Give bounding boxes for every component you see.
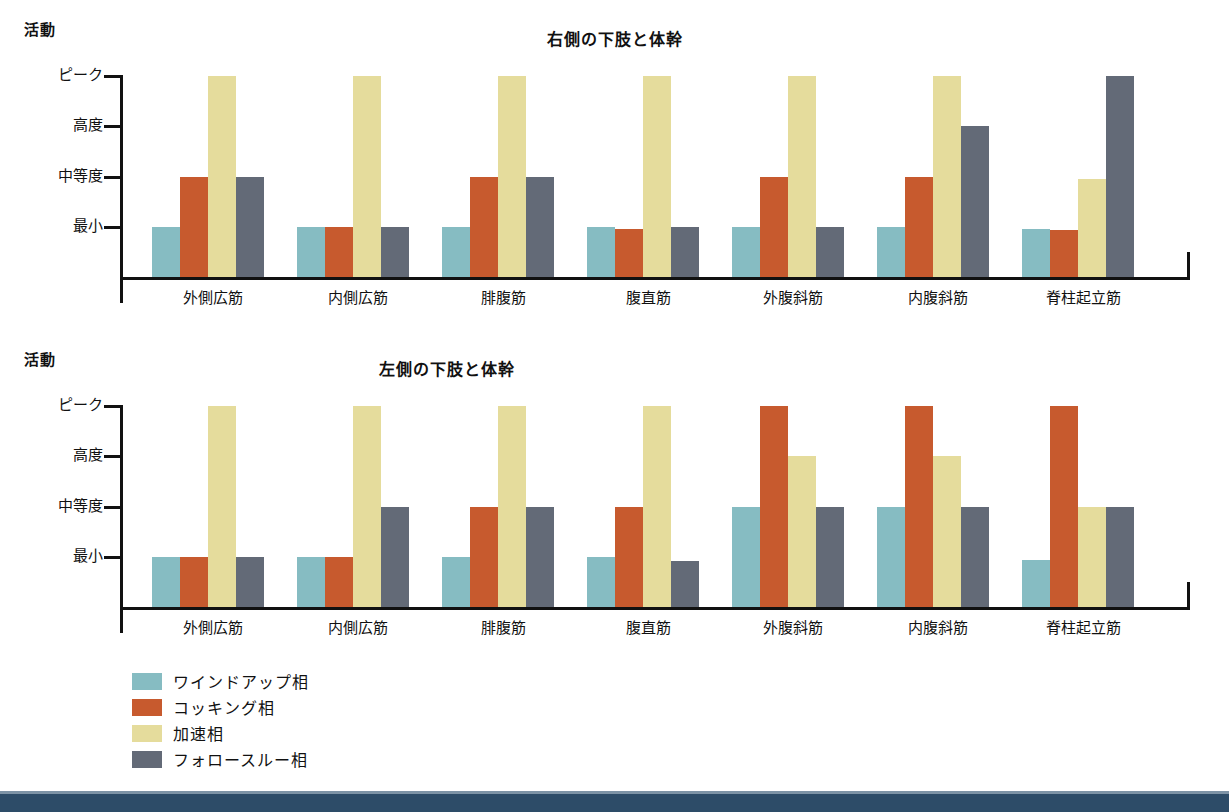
legend-item: 加速相 bbox=[132, 720, 532, 746]
bar-group: 外側広筋 bbox=[152, 406, 274, 607]
x-tick-label: 内側広筋 bbox=[278, 616, 438, 637]
bar-group: 内側広筋 bbox=[297, 406, 419, 607]
bar bbox=[905, 177, 933, 278]
bar bbox=[208, 406, 236, 607]
bar-group: 腓腹筋 bbox=[442, 406, 564, 607]
bar bbox=[1106, 507, 1134, 608]
bar bbox=[1050, 406, 1078, 607]
bottom-banner bbox=[0, 794, 1229, 812]
chart-title: 左側の下肢と体幹 bbox=[0, 356, 1061, 380]
bar bbox=[933, 76, 961, 277]
bar bbox=[760, 177, 788, 278]
bar bbox=[180, 177, 208, 278]
bar-groups: 外側広筋内側広筋腓腹筋腹直筋外腹斜筋内腹斜筋脊柱起立筋 bbox=[120, 406, 1190, 607]
plot-area: 最小中等度高度ピーク 外側広筋内側広筋腓腹筋腹直筋外腹斜筋内腹斜筋脊柱起立筋 bbox=[120, 76, 1190, 276]
bar bbox=[381, 227, 409, 277]
bar bbox=[236, 177, 264, 278]
bar bbox=[587, 227, 615, 277]
bar bbox=[353, 76, 381, 277]
x-tick-label: 脊柱起立筋 bbox=[1003, 616, 1163, 637]
bar bbox=[297, 227, 325, 277]
bar bbox=[498, 76, 526, 277]
bar bbox=[732, 507, 760, 608]
x-tick-label: 内側広筋 bbox=[278, 286, 438, 307]
bars bbox=[1022, 76, 1144, 277]
bar-group: 腓腹筋 bbox=[442, 76, 564, 277]
bar bbox=[961, 507, 989, 608]
bar bbox=[208, 76, 236, 277]
legend-label: 加速相 bbox=[173, 721, 224, 745]
bar bbox=[442, 557, 470, 607]
bar bbox=[877, 507, 905, 608]
legend-swatch-icon bbox=[132, 725, 162, 742]
bars bbox=[732, 406, 854, 607]
legend-swatch-icon bbox=[132, 699, 162, 716]
bar bbox=[381, 507, 409, 608]
bar bbox=[325, 557, 353, 607]
plot-area: 最小中等度高度ピーク 外側広筋内側広筋腓腹筋腹直筋外腹斜筋内腹斜筋脊柱起立筋 bbox=[120, 406, 1190, 606]
bar bbox=[671, 561, 699, 607]
bar bbox=[353, 406, 381, 607]
x-tick-label: 脊柱起立筋 bbox=[1003, 286, 1163, 307]
x-tick-label: 外側広筋 bbox=[133, 616, 293, 637]
y-tick-label: ピーク bbox=[0, 397, 103, 412]
legend-label: フォロースルー相 bbox=[173, 747, 308, 771]
bar bbox=[325, 227, 353, 277]
x-tick-label: 外腹斜筋 bbox=[713, 286, 873, 307]
y-tick-label: 中等度 bbox=[0, 498, 103, 513]
x-axis-left-stub bbox=[120, 607, 123, 633]
bar bbox=[788, 76, 816, 277]
x-tick-label: 腹直筋 bbox=[568, 616, 728, 637]
bar-group: 内腹斜筋 bbox=[877, 406, 999, 607]
bar bbox=[1050, 230, 1078, 277]
bar bbox=[587, 557, 615, 607]
x-axis-line bbox=[120, 607, 1190, 610]
y-tick-label: 高度 bbox=[0, 117, 103, 132]
bar bbox=[877, 227, 905, 277]
bar bbox=[1022, 560, 1050, 607]
bar bbox=[470, 177, 498, 278]
bar bbox=[961, 126, 989, 277]
x-tick-label: 内腹斜筋 bbox=[858, 616, 1018, 637]
bar bbox=[760, 406, 788, 607]
bar-group: 腹直筋 bbox=[587, 406, 709, 607]
legend-item: フォロースルー相 bbox=[132, 746, 532, 772]
y-tick-label: 中等度 bbox=[0, 168, 103, 183]
y-tick-label: ピーク bbox=[0, 67, 103, 82]
bar bbox=[933, 456, 961, 607]
bar bbox=[297, 557, 325, 607]
bar bbox=[905, 406, 933, 607]
x-tick-label: 内腹斜筋 bbox=[858, 286, 1018, 307]
bar bbox=[1022, 229, 1050, 277]
x-axis-left-stub bbox=[120, 277, 123, 303]
bar bbox=[1078, 507, 1106, 608]
bars bbox=[152, 406, 274, 607]
bars bbox=[442, 76, 564, 277]
bars bbox=[442, 406, 564, 607]
bar bbox=[643, 406, 671, 607]
bar bbox=[526, 507, 554, 608]
bars bbox=[1022, 406, 1144, 607]
bar bbox=[180, 557, 208, 607]
bar bbox=[615, 507, 643, 608]
bar bbox=[498, 406, 526, 607]
bar bbox=[442, 227, 470, 277]
bars bbox=[587, 76, 709, 277]
bar bbox=[152, 227, 180, 277]
bars bbox=[877, 76, 999, 277]
y-tick-label: 最小 bbox=[0, 218, 103, 233]
bar bbox=[816, 507, 844, 608]
x-tick-label: 腓腹筋 bbox=[423, 286, 583, 307]
bar bbox=[470, 507, 498, 608]
bar bbox=[1078, 179, 1106, 277]
bars bbox=[152, 76, 274, 277]
bar-groups: 外側広筋内側広筋腓腹筋腹直筋外腹斜筋内腹斜筋脊柱起立筋 bbox=[120, 76, 1190, 277]
bar bbox=[615, 229, 643, 277]
bars bbox=[587, 406, 709, 607]
legend-label: ワインドアップ相 bbox=[173, 669, 309, 693]
y-tick-label: 最小 bbox=[0, 548, 103, 563]
bar-group: 内腹斜筋 bbox=[877, 76, 999, 277]
chart-title: 右側の下肢と体幹 bbox=[0, 26, 1229, 50]
bars bbox=[297, 76, 419, 277]
bar-group: 外腹斜筋 bbox=[732, 406, 854, 607]
